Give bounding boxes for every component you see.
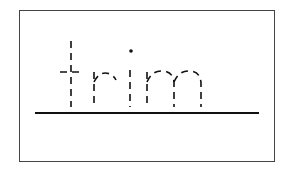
- letter-i-dot: [129, 49, 133, 53]
- trace-word-drawing: [0, 0, 295, 173]
- letter-t: [60, 41, 84, 107]
- letter-r: [94, 72, 116, 107]
- letter-m: [147, 71, 201, 107]
